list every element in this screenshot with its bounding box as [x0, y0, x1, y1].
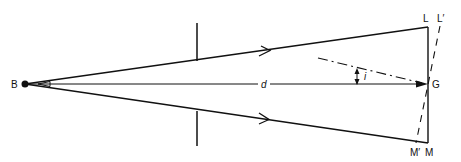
label-bottom-end: M	[425, 147, 433, 158]
label-top-end-tilted: L′	[437, 13, 445, 24]
label-top-end: L	[423, 13, 429, 24]
label-source: B	[11, 79, 18, 90]
label-bottom-end-tilted: M′	[410, 147, 420, 158]
label-distance: d	[261, 79, 267, 90]
ray-lower	[25, 84, 428, 143]
angle-arrow-up-icon	[355, 68, 360, 74]
label-angle: i	[364, 71, 367, 82]
normal-line	[318, 58, 422, 83]
label-center: G	[432, 79, 440, 90]
optics-diagram: B d i L L′ G M′ M	[0, 0, 461, 162]
ray-upper	[25, 27, 428, 84]
